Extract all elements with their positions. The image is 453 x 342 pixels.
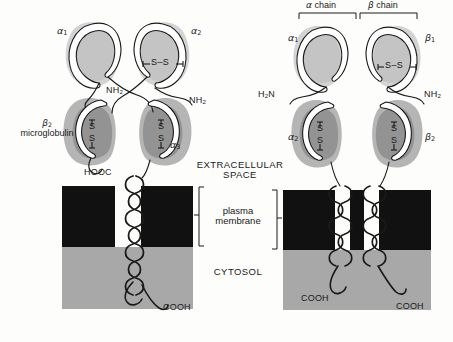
- right-ss-top-label: S–S: [385, 61, 403, 71]
- right-ss-a2-label-upper: S: [317, 124, 323, 134]
- left-membrane-band-right: [141, 186, 193, 247]
- left-nh2-inner-label: NH2: [106, 86, 123, 96]
- right-cooh-beta-label: COOH: [396, 302, 424, 312]
- right-h2n-label: H2N: [258, 90, 275, 100]
- left-ss-b2m-label-lower: S: [89, 134, 95, 144]
- mhc-molecule-diagram: α1 α2 α3 β2 microglobulin NH2 NH2 HOOC C…: [0, 0, 453, 342]
- left-b2-microglobulin-label: β2 microglobulin: [6, 119, 88, 139]
- left-nh2-outer-label: NH2: [189, 96, 206, 106]
- cytosol-label: CYTOSOL: [200, 267, 276, 277]
- left-alpha1-label: α1: [57, 26, 67, 37]
- right-membrane-band-right: [379, 190, 431, 250]
- right-nh2-label: NH2: [424, 90, 441, 100]
- right-ss-b2-label-lower: S: [391, 136, 397, 146]
- left-cooh-label: COOH: [163, 303, 191, 313]
- right-membrane-cytosol-block: [283, 190, 431, 310]
- right-membrane-band-middle: [350, 190, 364, 250]
- plasma-membrane-label: plasma membrane: [202, 206, 274, 227]
- beta-chain-bracket: [360, 13, 417, 19]
- right-alpha2-label: α2: [288, 132, 298, 143]
- left-ss-top-label: S–S: [151, 58, 169, 68]
- left-ss-a3-label-lower: S: [158, 134, 164, 144]
- right-ss-b2-label-upper: S: [391, 124, 397, 134]
- extracellular-space-label: EXTRACELLULAR SPACE: [196, 160, 284, 181]
- left-membrane-band-left: [62, 186, 115, 247]
- right-membrane-band-left: [283, 190, 335, 250]
- left-cytosol-region: [62, 247, 193, 309]
- alpha-chain-label: α chain: [306, 1, 336, 11]
- left-alpha3-label: α3: [170, 140, 180, 151]
- right-alpha1-label: α1: [288, 33, 298, 44]
- alpha-chain-bracket: [299, 13, 356, 19]
- left-alpha2-label: α2: [191, 26, 201, 37]
- right-cooh-alpha-label: COOH: [301, 294, 329, 304]
- beta-chain-label: β chain: [368, 1, 398, 11]
- disulfide-tick-marks: [89, 61, 416, 150]
- left-hooc-label: HOOC: [84, 168, 112, 178]
- left-ss-a3-label-upper: S: [158, 122, 164, 132]
- right-beta1-label: β1: [425, 33, 435, 44]
- right-beta2-label: β2: [425, 132, 435, 143]
- left-ss-b2m-label-upper: S: [89, 122, 95, 132]
- right-ss-a2-label-lower: S: [317, 136, 323, 146]
